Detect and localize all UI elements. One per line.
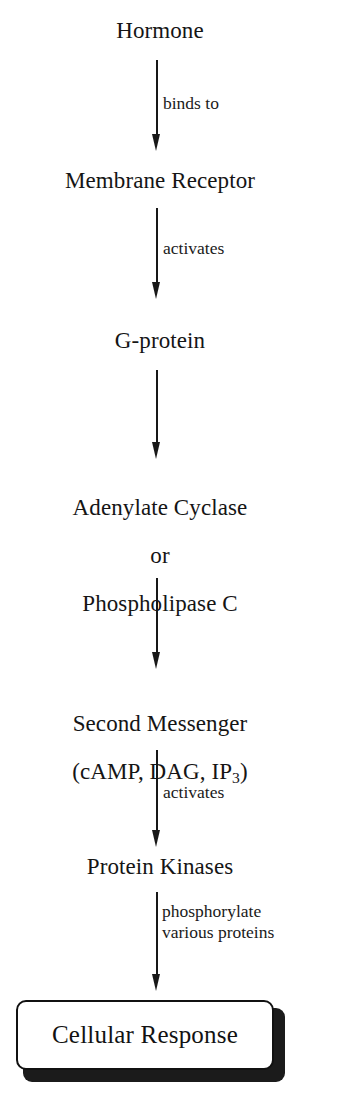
node-hormone: Hormone [0, 18, 320, 43]
arrow-gprotein-to-enzyme [147, 370, 167, 460]
arrow-shaft [156, 892, 158, 976]
node-g-protein: G-protein [0, 328, 320, 353]
edge-label-activates-1: activates [163, 238, 224, 259]
node-protein-kinases: Protein Kinases [0, 854, 320, 879]
messenger-formula-suffix: ) [240, 759, 248, 784]
arrow-head [152, 974, 160, 991]
arrow-head [152, 282, 160, 299]
signal-transduction-flowchart: Hormone binds to Membrane Receptor activ… [0, 0, 343, 1100]
node-second-messenger-line-1: Second Messenger [0, 712, 320, 736]
messenger-formula-subscript: 3 [232, 769, 240, 786]
arrow-enzyme-to-second-messenger [147, 578, 167, 670]
node-cellular-response: Cellular Response [16, 1000, 286, 1082]
arrow-head [152, 442, 160, 459]
arrow-head [152, 830, 160, 847]
edge-label-binds-to: binds to [163, 93, 219, 114]
arrow-shaft [156, 370, 158, 444]
edge-label-phosphorylate: phosphorylate various proteins [162, 901, 274, 943]
arrow-head [152, 652, 160, 669]
arrow-shaft [156, 208, 158, 284]
arrow-head [152, 134, 160, 151]
edge-label-activates-2: activates [163, 782, 224, 803]
arrow-shaft [156, 578, 158, 654]
cellular-response-label: Cellular Response [52, 1021, 238, 1049]
node-enzyme-line-2: or [0, 544, 320, 568]
node-enzyme-line-1: Adenylate Cyclase [0, 496, 320, 520]
node-membrane-receptor: Membrane Receptor [0, 168, 320, 193]
arrow-shaft [156, 60, 158, 136]
arrow-shaft [156, 750, 158, 832]
cellular-response-box: Cellular Response [16, 1000, 274, 1070]
